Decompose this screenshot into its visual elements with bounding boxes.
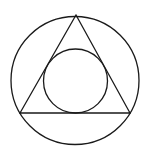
geometry-figure [0,0,148,155]
inner-circle [44,49,108,113]
outer-circle [11,17,139,145]
diagram-canvas [0,0,148,155]
